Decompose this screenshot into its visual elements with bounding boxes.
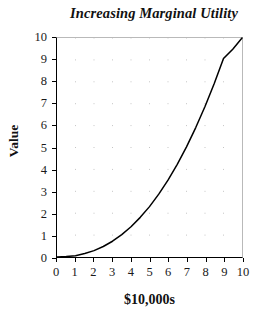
chart-title: Increasing Marginal Utility xyxy=(56,4,252,22)
utility-curve xyxy=(57,38,242,257)
x-tick-mark xyxy=(56,258,57,262)
y-tick-label: 3 xyxy=(17,186,47,198)
y-tick-label: 0 xyxy=(17,252,47,264)
y-tick-label: 2 xyxy=(17,208,47,220)
x-axis-title: $10,000s xyxy=(56,292,243,308)
y-tick-mark xyxy=(52,192,56,193)
x-tick-mark xyxy=(75,258,76,262)
y-tick-label: 1 xyxy=(17,230,47,242)
x-tick-mark xyxy=(243,258,244,262)
y-tick-label: 9 xyxy=(17,53,47,65)
y-tick-mark xyxy=(52,59,56,60)
x-tick-mark xyxy=(150,258,151,262)
x-tick-mark xyxy=(206,258,207,262)
y-tick-label: 10 xyxy=(17,31,47,43)
plot-area xyxy=(56,37,243,258)
y-tick-label: 6 xyxy=(17,119,47,131)
x-tick-mark xyxy=(112,258,113,262)
y-tick-mark xyxy=(52,170,56,171)
y-tick-label: 4 xyxy=(17,164,47,176)
x-tick-mark xyxy=(224,258,225,262)
y-tick-mark xyxy=(52,103,56,104)
x-tick-mark xyxy=(131,258,132,262)
x-tick-mark xyxy=(168,258,169,262)
y-tick-mark xyxy=(52,148,56,149)
x-tick-label: 10 xyxy=(232,266,254,279)
y-tick-label: 7 xyxy=(17,97,47,109)
y-tick-label: 8 xyxy=(17,75,47,87)
y-tick-label: 5 xyxy=(17,142,47,154)
chart-figure: Increasing Marginal Utility 012345678910… xyxy=(0,0,260,329)
y-tick-mark xyxy=(52,214,56,215)
x-tick-mark xyxy=(187,258,188,262)
y-tick-mark xyxy=(52,81,56,82)
y-tick-mark xyxy=(52,125,56,126)
y-tick-mark xyxy=(52,236,56,237)
y-tick-mark xyxy=(52,37,56,38)
y-axis-title: Value xyxy=(7,111,21,171)
x-tick-mark xyxy=(93,258,94,262)
